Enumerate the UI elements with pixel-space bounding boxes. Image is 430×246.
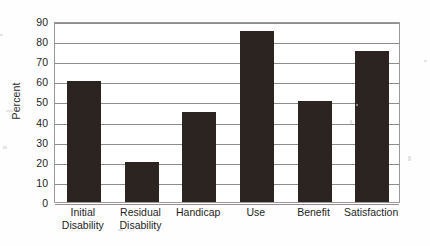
plot-area [54,22,400,203]
bar-satisfaction [355,51,389,202]
bars-layer [55,23,399,202]
bar-chart-figure: Percent 0102030405060708090 InitialDisab… [0,0,430,246]
scan-speckle [356,104,358,106]
x-tick-label-line: Disability [95,219,187,232]
y-tick-label-60: 60 [20,77,48,87]
y-tick-label-50: 50 [20,97,48,107]
scan-speckle [3,146,7,149]
x-axis-tick-labels: InitialDisabilityResidualDisabilityHandi… [54,206,400,246]
x-tick-label-line: Satisfaction [325,206,417,219]
y-tick-label-90: 90 [20,17,48,27]
y-tick-label-30: 30 [20,138,48,148]
y-tick-label-40: 40 [20,118,48,128]
scan-speckle [6,110,13,112]
y-tick-label-20: 20 [20,158,48,168]
y-tick-label-80: 80 [20,37,48,47]
scan-speckle [0,34,3,36]
x-tick-label-satisfaction: Satisfaction [325,206,417,219]
bar-use [240,31,274,202]
scan-speckle [408,156,411,161]
bar-benefit [298,101,332,202]
y-axis-tick-labels: 0102030405060708090 [20,22,48,203]
y-tick-label-70: 70 [20,57,48,67]
y-tick-label-10: 10 [20,178,48,188]
scan-speckle [118,229,123,231]
scan-speckle [350,120,352,124]
bar-residual-disability [125,162,159,202]
scan-speckle [424,60,427,62]
gridline-0 [55,204,399,205]
bar-initial-disability [67,81,101,202]
bar-handicap [182,112,216,203]
